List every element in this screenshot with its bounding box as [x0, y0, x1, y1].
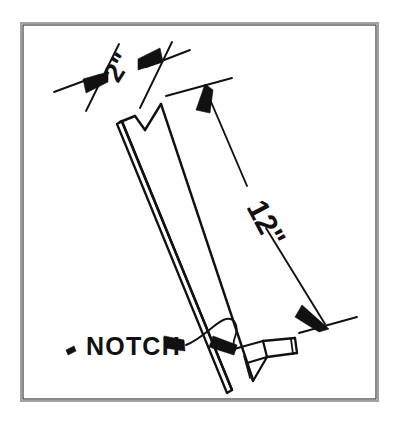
drawing-page: 2": [0, 0, 399, 424]
technical-drawing-canvas: 2": [0, 0, 399, 424]
page-background: [0, 0, 399, 424]
